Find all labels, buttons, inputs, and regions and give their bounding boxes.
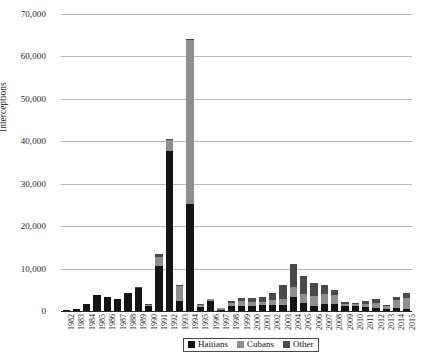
bar-stack[interactable] [63, 310, 70, 311]
bar-stack[interactable] [383, 305, 390, 311]
bar-slot[interactable] [82, 14, 92, 311]
bar-stack[interactable] [372, 299, 379, 311]
bar-segment-haitians [310, 306, 317, 311]
bar-slot[interactable] [61, 14, 71, 311]
bar-slot[interactable] [309, 14, 319, 311]
bar-slot[interactable] [237, 14, 247, 311]
bar-slot[interactable] [195, 14, 205, 311]
bar-segment-haitians [352, 306, 359, 311]
bar-stack[interactable] [114, 299, 121, 311]
bar-slot[interactable] [71, 14, 81, 311]
bar-segment-other [321, 285, 328, 293]
bar-segment-haitians [207, 301, 214, 311]
bar-slot[interactable] [381, 14, 391, 311]
bar-stack[interactable] [362, 301, 369, 311]
bar-stack[interactable] [124, 293, 131, 311]
bar-stack[interactable] [186, 39, 193, 311]
bar-stack[interactable] [166, 139, 173, 311]
bar-stack[interactable] [393, 297, 400, 311]
x-tick-label: 1993 [182, 314, 190, 330]
x-tick-label: 1990 [151, 314, 159, 330]
x-tick-label: 1992 [171, 314, 179, 330]
bar-slot[interactable] [298, 14, 308, 311]
legend-item-haitians[interactable]: Haitians [188, 340, 228, 349]
bar-stack[interactable] [93, 295, 100, 311]
chart-legend: HaitiansCubansOther [183, 338, 319, 352]
bar-stack[interactable] [279, 285, 286, 311]
bar-slot[interactable] [92, 14, 102, 311]
bar-stack[interactable] [104, 297, 111, 311]
legend-label: Other [293, 340, 314, 349]
bar-segment-haitians [166, 151, 173, 311]
x-tick-label: 1999 [244, 314, 252, 330]
bar-slot[interactable] [247, 14, 257, 311]
bar-stack[interactable] [259, 297, 266, 311]
bar-slot[interactable] [278, 14, 288, 311]
legend-label: Haitians [198, 340, 228, 349]
bar-slot[interactable] [329, 14, 339, 311]
bar-slot[interactable] [102, 14, 112, 311]
bar-slot[interactable] [350, 14, 360, 311]
bar-stack[interactable] [155, 254, 162, 311]
bar-segment-cubans [290, 287, 297, 297]
x-tick-label: 1995 [202, 314, 210, 330]
bar-slot[interactable] [288, 14, 298, 311]
bar-segment-haitians [145, 306, 152, 311]
bar-slot[interactable] [267, 14, 277, 311]
bar-stack[interactable] [207, 299, 214, 312]
bar-stack[interactable] [135, 287, 142, 311]
bar-slot[interactable] [206, 14, 216, 311]
bar-slot[interactable] [360, 14, 370, 311]
bar-stack[interactable] [217, 308, 224, 311]
bar-slot[interactable] [216, 14, 226, 311]
bar-slot[interactable] [144, 14, 154, 311]
interceptions-bar-chart: Interceptions 70,00060,00050,00040,00030… [0, 0, 423, 360]
bar-slot[interactable] [402, 14, 412, 311]
legend-item-cubans[interactable]: Cubans [237, 340, 274, 349]
bar-stack[interactable] [341, 302, 348, 311]
legend-item-other[interactable]: Other [283, 340, 314, 349]
bar-stack[interactable] [269, 293, 276, 311]
bar-stack[interactable] [290, 264, 297, 311]
bar-stack[interactable] [145, 304, 152, 311]
bar-stack[interactable] [176, 285, 183, 311]
bar-stack[interactable] [331, 290, 338, 311]
bar-slot[interactable] [164, 14, 174, 311]
bar-slot[interactable] [154, 14, 164, 311]
bar-stack[interactable] [248, 298, 255, 311]
bar-stack[interactable] [197, 304, 204, 311]
bar-segment-haitians [114, 299, 121, 311]
bar-slot[interactable] [113, 14, 123, 311]
bar-stack[interactable] [321, 285, 328, 311]
bar-segment-haitians [269, 305, 276, 311]
bar-segment-haitians [155, 266, 162, 311]
bar-segment-other [279, 285, 286, 299]
bar-segment-haitians [73, 309, 80, 311]
bar-stack[interactable] [83, 304, 90, 311]
bar-stack[interactable] [310, 283, 317, 311]
bar-stack[interactable] [228, 301, 235, 311]
y-tick-label-20000: 20,000 [0, 222, 46, 231]
bar-segment-haitians [300, 303, 307, 311]
bar-stack[interactable] [352, 303, 359, 311]
bar-stack[interactable] [300, 276, 307, 311]
bar-slot[interactable] [175, 14, 185, 311]
x-tick-label: 2011 [367, 314, 375, 330]
bar-segment-haitians [197, 307, 204, 311]
bar-slot[interactable] [319, 14, 329, 311]
bar-stack[interactable] [73, 309, 80, 311]
bar-slot[interactable] [340, 14, 350, 311]
bar-slot[interactable] [133, 14, 143, 311]
bar-slot[interactable] [226, 14, 236, 311]
bar-segment-haitians [104, 297, 111, 311]
bar-stack[interactable] [238, 298, 245, 311]
bar-segment-haitians [135, 288, 142, 311]
bar-stack[interactable] [403, 293, 410, 311]
bar-slot[interactable] [123, 14, 133, 311]
bar-slot[interactable] [371, 14, 381, 311]
bar-slot[interactable] [185, 14, 195, 311]
bar-segment-haitians [93, 295, 100, 311]
bar-segment-haitians [238, 306, 245, 311]
bar-slot[interactable] [257, 14, 267, 311]
bar-slot[interactable] [391, 14, 401, 311]
